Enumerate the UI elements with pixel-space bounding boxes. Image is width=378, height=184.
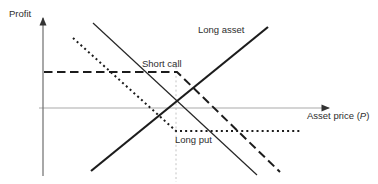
long-put-label: Long put <box>175 134 212 145</box>
long-asset-line <box>91 27 268 171</box>
long-asset-label: Long asset <box>198 24 244 35</box>
diagram-svg <box>0 0 378 184</box>
asset-price-label-text: Asset price ( <box>307 110 360 121</box>
long-put-line <box>73 38 301 131</box>
payoff-diagram: Profit Long asset Short call Long put As… <box>0 0 378 184</box>
asset-price-axis-label: Asset price (P) <box>307 110 369 121</box>
asset-price-label-close: ) <box>366 110 369 121</box>
short-call-label: Short call <box>142 58 182 69</box>
short-asset-line <box>93 23 257 175</box>
profit-axis-label: Profit <box>9 8 31 19</box>
